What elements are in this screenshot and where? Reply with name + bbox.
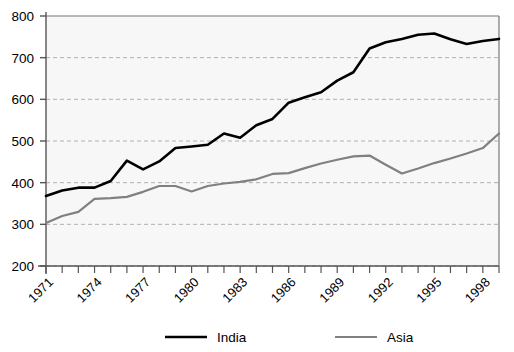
- line-chart: 2003004005006007008001971197419771980198…: [0, 0, 514, 352]
- x-tick-label-1995: 1995: [413, 275, 444, 306]
- y-tick-label-400: 400: [11, 176, 34, 191]
- x-tick-label-1992: 1992: [365, 275, 396, 306]
- y-tick-label-600: 600: [11, 92, 34, 107]
- y-tick-label-300: 300: [11, 217, 34, 232]
- legend-label-asia: Asia: [387, 330, 414, 345]
- legend-label-india: India: [217, 330, 247, 345]
- x-tick-label-1980: 1980: [171, 275, 202, 306]
- x-tick-label-1998: 1998: [462, 275, 493, 306]
- chart-canvas: 2003004005006007008001971197419771980198…: [0, 0, 514, 352]
- x-tick-label-1989: 1989: [316, 275, 347, 306]
- y-tick-label-500: 500: [11, 134, 34, 149]
- y-tick-label-800: 800: [11, 9, 34, 24]
- x-tick-label-1977: 1977: [122, 275, 153, 306]
- x-tick-label-1974: 1974: [74, 275, 105, 306]
- y-tick-label-200: 200: [11, 259, 34, 274]
- x-tick-label-1971: 1971: [25, 275, 56, 306]
- y-tick-label-700: 700: [11, 51, 34, 66]
- x-tick-label-1983: 1983: [219, 275, 250, 306]
- x-tick-label-1986: 1986: [268, 275, 299, 306]
